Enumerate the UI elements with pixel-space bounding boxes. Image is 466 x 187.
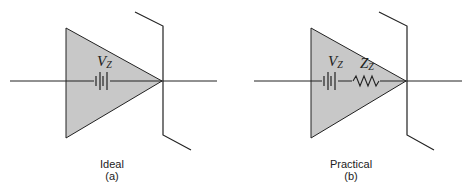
caption-practical: Practical <box>330 158 372 170</box>
panel-ideal: VZ Ideal (a) <box>10 12 217 182</box>
zz-label: ZZ <box>360 55 374 72</box>
panel-practical: VZ ZZ Practical (b) <box>254 12 462 182</box>
zener-diode-models-diagram: VZ Ideal (a) VZ ZZ Practical (b) <box>0 0 466 187</box>
caption-ideal: Ideal <box>100 158 124 170</box>
resistor-icon <box>352 75 380 87</box>
diode-triangle <box>66 28 162 138</box>
sublabel-b: (b) <box>344 170 357 182</box>
sublabel-a: (a) <box>105 170 118 182</box>
